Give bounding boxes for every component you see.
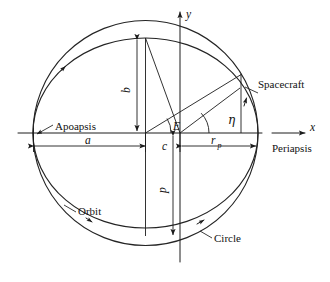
angle-arc-E [167,119,171,134]
dimension-a-label: a [85,134,91,146]
dimension-rp: r p [180,133,256,152]
dimension-b-label: b [120,87,132,93]
apoapsis-label: Apoapsis [55,120,96,132]
orbit-label: Orbit [78,205,101,217]
orbital-geometry-figure: x y a b c [0,0,330,282]
spacecraft-label: Spacecraft [258,78,304,90]
callout-spacecraft: Spacecraft [245,78,304,93]
apex-to-focus-line [146,38,181,133]
periapsis-label: Periapsis [272,142,312,154]
eccentric-anomaly-label: E [172,120,180,132]
dimension-rp-subscript: p [217,141,222,150]
diagram-canvas: x y a b c [0,0,330,282]
x-axis-label: x [309,121,316,133]
label-true-anomaly: η [228,113,236,127]
dimension-b: b [120,40,137,131]
callout-periapsis: Periapsis [272,142,312,154]
circle-label: Circle [214,232,241,244]
true-anomaly-label: η [228,113,236,127]
callout-circle: Circle [200,231,241,244]
callout-orbit: Orbit [64,205,101,217]
dimension-rp-label: r [211,134,216,146]
dimension-c: c [162,140,167,152]
callout-apoapsis: Apoapsis [37,120,96,134]
dimension-c-label: c [162,140,167,152]
y-axis-label: y [185,8,192,21]
dimension-p-label: p [156,187,169,194]
label-eccentric-anomaly: E [172,120,180,132]
